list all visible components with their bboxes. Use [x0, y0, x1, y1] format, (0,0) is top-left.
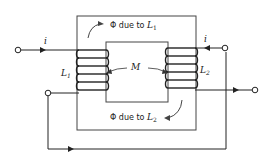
terminal-right-bottom [252, 87, 258, 93]
flux-arrow-top-icon [88, 24, 100, 38]
coil-right [166, 48, 198, 88]
mutual-label: M [130, 62, 141, 72]
arrow-current-right-icon [204, 45, 210, 51]
arrow-current-left-icon [40, 47, 46, 53]
flux-arrow-bottom-icon [168, 100, 182, 118]
core-window [106, 42, 168, 102]
coupled-coils-diagram: Φ due to L1 Φ due to L2 L1 L2 M i i [0, 0, 271, 158]
current-label-right: i [204, 34, 207, 44]
flux-label-bottom: Φ due to L2 [110, 112, 157, 123]
arrow-bottom-loop-icon [68, 146, 74, 152]
terminal-left-top [15, 47, 21, 53]
flux-label-top: Φ due to L1 [110, 20, 157, 31]
coil-label-right: L2 [199, 65, 210, 76]
coil-left [77, 50, 109, 90]
terminal-left-bottom [45, 90, 51, 96]
arrow-right-bottom-icon [233, 87, 239, 93]
terminal-right-top [222, 45, 228, 51]
current-label-left: i [44, 36, 47, 46]
coil-label-left: L1 [60, 68, 71, 79]
